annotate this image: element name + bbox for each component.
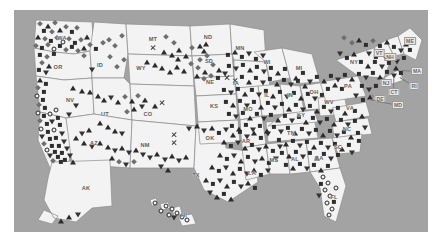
callout-label-ct: CT xyxy=(389,88,400,96)
callout-label-nh: NH xyxy=(384,53,396,61)
callout-label-me: ME xyxy=(404,37,416,45)
callout-label-vt: VT xyxy=(374,49,385,57)
callout-label-md: MD xyxy=(392,101,404,109)
state-label-mt: MT xyxy=(149,36,157,42)
state-label-ms: MS xyxy=(270,157,279,163)
state-label-nm: NM xyxy=(140,142,149,148)
state-label-ar: AR xyxy=(242,138,250,144)
state-label-co: CO xyxy=(144,111,153,117)
state-label-il: IL xyxy=(264,92,269,98)
callout-label-ri: RI xyxy=(409,82,418,90)
state-label-mi: MI xyxy=(296,65,303,71)
state-label-ne: NE xyxy=(206,79,214,85)
state-label-nv: NV xyxy=(66,97,74,103)
state-label-hi: HI xyxy=(181,212,187,218)
state-label-va: VA xyxy=(346,105,354,111)
state-label-al: AL xyxy=(291,156,299,162)
state-label-fl: FL xyxy=(330,194,337,200)
state-label-sc: SC xyxy=(334,144,342,150)
state-label-tn: TN xyxy=(287,130,295,136)
state-label-ia: IA xyxy=(233,80,239,86)
state-label-mo: MO xyxy=(243,106,252,112)
us-distribution-map-figure: WAORIDMTNDSDNEWYNVUTCOKSMNWIMIIAMOILINOH… xyxy=(0,0,444,247)
state-label-id: ID xyxy=(97,62,103,68)
state-label-sd: SD xyxy=(205,58,213,64)
state-label-pa: PA xyxy=(344,83,352,89)
state-label-tx: TX xyxy=(192,172,200,178)
state-label-ok: OK xyxy=(206,135,215,141)
state-label-az: AZ xyxy=(90,140,98,146)
state-label-wy: WY xyxy=(136,65,145,71)
map-panel: WAORIDMTNDSDNEWYNVUTCOKSMNWIMIIAMOILINOH… xyxy=(14,10,428,232)
state-label-wa: WA xyxy=(57,35,66,41)
state-label-ny: NY xyxy=(350,59,358,65)
state-label-nd: ND xyxy=(204,34,212,40)
state-label-wi: WI xyxy=(263,59,270,65)
state-label-ak: AK xyxy=(82,185,90,191)
callout-label-ma: MA xyxy=(411,67,423,75)
state-label-wv: WV xyxy=(324,99,333,105)
state-label-ut: UT xyxy=(101,111,109,117)
state-label-ga: GA xyxy=(315,155,324,161)
us-states-outline xyxy=(14,10,428,232)
callout-label-nj: NJ xyxy=(381,79,392,87)
state-label-oh: OH xyxy=(310,89,319,95)
state-shapes xyxy=(34,20,422,226)
state-label-in: IN xyxy=(287,92,293,98)
state-label-ky: KY xyxy=(297,112,305,118)
state-label-mn: MN xyxy=(235,45,244,51)
state-label-ks: KS xyxy=(210,103,218,109)
state-label-la: LA xyxy=(248,170,256,176)
state-label-nc: NC xyxy=(343,126,351,132)
state-label-or: OR xyxy=(54,64,63,70)
